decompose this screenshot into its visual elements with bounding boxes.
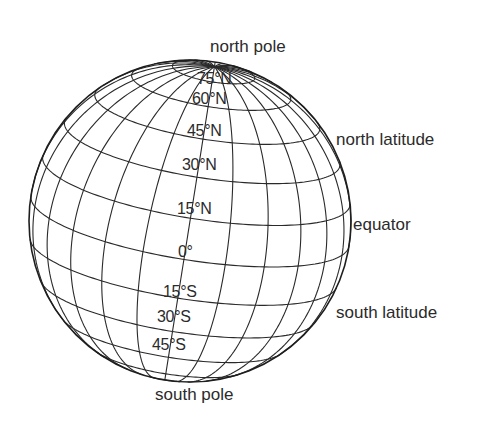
- grid-line: [165, 67, 215, 380]
- latitude-longitude-grid: [30, 60, 351, 382]
- label-equator: equator: [353, 216, 411, 233]
- latitude-label-75n: 75°N: [197, 71, 232, 87]
- latitude-label-45s: 45°S: [152, 337, 186, 353]
- latitude-label-60n: 60°N: [192, 91, 227, 107]
- latitude-label-15n: 15°N: [177, 201, 212, 217]
- latitude-label-equator-0: 0°: [178, 244, 193, 260]
- latitude-label-30s: 30°S: [157, 309, 191, 325]
- latitude-label-15s: 15°S: [163, 284, 197, 300]
- label-south-latitude: south latitude: [336, 304, 437, 321]
- label-north-pole: north pole: [210, 38, 286, 55]
- grid-line: [203, 67, 301, 382]
- latitude-label-45n: 45°N: [187, 123, 222, 139]
- grid-line: [176, 67, 233, 382]
- label-south-pole: south pole: [155, 386, 233, 403]
- grid-line: [137, 67, 214, 378]
- globe-diagram: [0, 0, 485, 424]
- label-north-latitude: north latitude: [336, 131, 434, 148]
- latitude-label-30n: 30°N: [182, 157, 217, 173]
